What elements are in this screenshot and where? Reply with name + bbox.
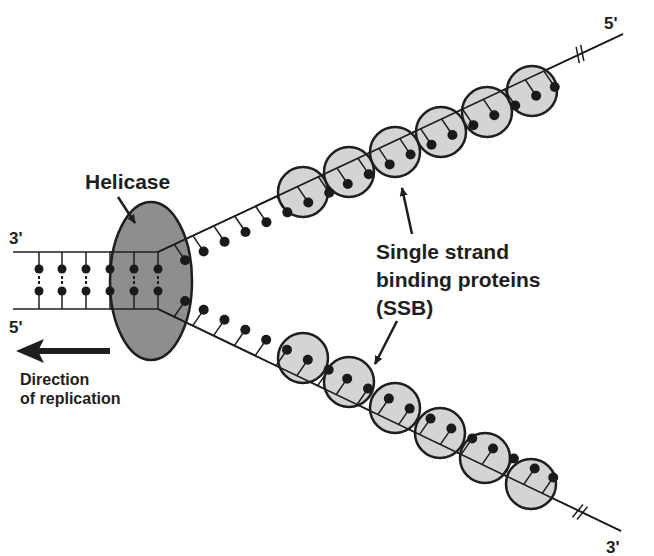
base-dot <box>343 179 353 189</box>
base-dot <box>406 150 416 160</box>
hydrogen-bond <box>38 276 40 279</box>
base-dot <box>427 140 437 150</box>
base-dot <box>58 287 67 296</box>
base-dot <box>488 444 498 454</box>
base-dot <box>220 237 230 247</box>
base-dot <box>82 287 91 296</box>
base-dot <box>550 82 560 92</box>
ssb-pointer-arrow-upper <box>402 188 412 234</box>
base-dot <box>240 325 250 335</box>
strand-backbone-over <box>158 309 621 531</box>
hydrogen-bond <box>61 281 63 284</box>
base-dot <box>303 198 313 208</box>
helicase-enzyme <box>110 202 192 360</box>
base-dot <box>241 227 251 237</box>
ssb-proteins-upper <box>158 34 623 252</box>
base-dot <box>154 265 163 274</box>
duplex-bottom-5prime-label: 5' <box>9 318 23 337</box>
base-dot <box>364 169 374 179</box>
base-dot <box>509 454 519 464</box>
hydrogen-bond <box>109 276 111 279</box>
base-dot <box>530 464 540 474</box>
hydrogen-bond <box>109 281 111 284</box>
hydrogen-bond <box>157 276 159 279</box>
base-dot <box>548 472 558 482</box>
base-dot <box>384 394 394 404</box>
base-dot <box>282 207 292 217</box>
base-dot <box>180 255 190 265</box>
base-dot <box>282 345 292 355</box>
base-dot <box>385 159 395 169</box>
base-dot <box>467 434 477 444</box>
hydrogen-bond <box>61 276 63 279</box>
lower-strand-3prime-label: 3' <box>606 538 620 556</box>
base-dot <box>180 296 190 306</box>
base-dot <box>106 287 115 296</box>
helicase-label: Helicase <box>85 170 170 193</box>
duplex-top-3prime-label: 3' <box>9 229 23 248</box>
base-dot <box>510 101 520 111</box>
base-dot <box>219 315 229 325</box>
ssb-protein <box>278 333 328 383</box>
base-dot <box>199 247 209 257</box>
base-dot <box>199 305 209 315</box>
base-dot <box>35 265 44 274</box>
base-dot <box>426 414 436 424</box>
hydrogen-bond <box>133 281 135 284</box>
ssb-label-line1: Single strand <box>376 240 509 263</box>
hydrogen-bond <box>85 281 87 284</box>
ssb-protein <box>415 408 465 458</box>
hydrogen-bond <box>133 276 135 279</box>
direction-of-replication-arrow <box>16 339 110 363</box>
base-dot <box>447 130 457 140</box>
base-dot <box>261 217 271 227</box>
base-dot <box>363 384 373 394</box>
base-dot <box>154 287 163 296</box>
base-dot <box>130 265 139 274</box>
ssb-label-line2: binding proteins <box>376 268 540 291</box>
base-dot <box>468 120 478 130</box>
base-dot <box>130 287 139 296</box>
base-dot <box>446 424 456 434</box>
direction-label-line2: of replication <box>20 390 120 407</box>
base-dot <box>82 265 91 274</box>
direction-label-line1: Direction <box>20 371 89 388</box>
base-dot <box>489 110 499 120</box>
hydrogen-bond <box>157 281 159 284</box>
ssb-protein <box>462 87 512 137</box>
hydrogen-bond <box>85 276 87 279</box>
base-dot <box>405 404 415 414</box>
base-dot <box>342 374 352 384</box>
base-dot <box>303 355 313 365</box>
ssb-pointer-arrow-lower <box>375 321 397 364</box>
strand-backbone-over <box>158 34 623 252</box>
base-dot <box>531 91 541 101</box>
hydrogen-bond <box>38 281 40 284</box>
base-dot <box>106 265 115 274</box>
ssb-label-line3: (SSB) <box>376 296 433 319</box>
base-dot <box>324 365 334 375</box>
base-dot <box>58 265 67 274</box>
base-dot <box>35 287 44 296</box>
base-dot <box>261 335 271 345</box>
ssb-proteins-lower <box>158 309 621 531</box>
replication-fork-diagram: Helicase 3' 5' 5' 3' Single strand bindi… <box>0 0 654 556</box>
base-dot <box>324 188 334 198</box>
upper-strand-5prime-label: 5' <box>604 14 618 33</box>
